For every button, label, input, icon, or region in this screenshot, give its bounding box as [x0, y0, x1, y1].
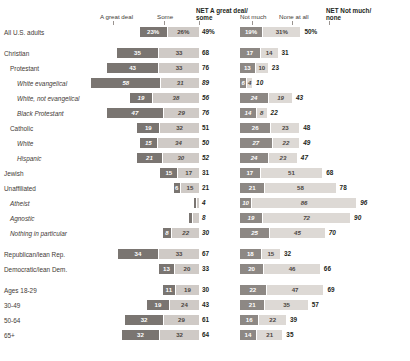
- segment-great-deal: 15: [140, 138, 158, 148]
- header-right-col2: None at all: [279, 13, 309, 20]
- segment-great-deal: 43: [107, 63, 159, 73]
- net-great-deal-some: 52: [202, 153, 209, 163]
- header-left-col1: A great deal: [100, 13, 133, 20]
- segment-not-much: 25: [240, 228, 270, 238]
- chart-row: Black Protestant47297614822: [0, 108, 410, 119]
- segment-not-much: 17: [240, 48, 261, 58]
- segment-not-much: 14: [240, 330, 257, 340]
- chart-sheet: A great deal Some NET A great deal/ some…: [0, 0, 410, 361]
- row-label: White, not evangelical: [17, 94, 80, 103]
- segment-not-much: 24: [240, 93, 269, 103]
- row-label: Black Protestant: [17, 109, 64, 118]
- net-great-deal-some: 67: [202, 249, 209, 259]
- net-great-deal-some: 31: [202, 168, 209, 178]
- net-great-deal-some: 68: [202, 48, 209, 58]
- net-not-much-none: 90: [354, 213, 361, 223]
- net-not-much-none: 96: [360, 198, 367, 208]
- segment-not-much: 10: [240, 198, 252, 208]
- row-label: White evangelical: [17, 79, 67, 88]
- row-label: Agnostic: [10, 214, 35, 223]
- segment-not-much: 26: [240, 123, 271, 133]
- chart-row: 65+323264142135: [0, 330, 410, 341]
- row-label: Republican/lean Rep.: [4, 250, 65, 259]
- header-right-col1: Not much: [240, 13, 266, 20]
- segment-some: 32: [160, 123, 199, 133]
- segment-some: 31: [161, 78, 199, 88]
- net-not-much-none: 49: [303, 138, 310, 148]
- chart-row: Protestant433376131023: [0, 63, 410, 74]
- segment-some: 19: [176, 285, 199, 295]
- segment-none-at-all: 46: [264, 264, 320, 274]
- segment-some: 30: [163, 153, 199, 163]
- row-label: White: [17, 139, 33, 148]
- header-right-net-line2: none: [326, 14, 341, 21]
- segment-none-at-all: 51: [261, 168, 323, 178]
- segment-none-at-all: 14: [261, 48, 278, 58]
- segment-some: 34: [158, 138, 199, 148]
- segment-none-at-all: 47: [267, 285, 324, 295]
- segment-none-at-all: 35: [265, 300, 307, 310]
- segment-some: 24: [170, 300, 199, 310]
- segment-great-deal: 47: [107, 108, 164, 118]
- row-label: All U.S. adults: [4, 28, 44, 37]
- net-great-deal-some: 56: [202, 93, 209, 103]
- net-great-deal-some: 89: [202, 78, 209, 88]
- segment-not-much: 21: [240, 300, 265, 310]
- net-great-deal-some: 49%: [202, 27, 215, 37]
- net-not-much-none: 50%: [305, 27, 318, 37]
- segment-great-deal: 23%: [140, 27, 168, 37]
- segment-great-deal: 35: [117, 48, 159, 58]
- segment-none-at-all: 15: [262, 249, 280, 259]
- segment-none-at-all: 86: [252, 198, 356, 208]
- tick-left-3: [199, 21, 200, 25]
- segment-some: 29: [164, 108, 199, 118]
- tick-right-1: [252, 21, 253, 25]
- segment-none-at-all: 22: [259, 315, 286, 325]
- chart-row: Atheist4108696: [0, 198, 410, 209]
- segment-some: [193, 213, 199, 223]
- segment-great-deal: 19: [147, 300, 170, 310]
- segment-some: 17: [178, 168, 199, 178]
- net-great-deal-some: 76: [202, 108, 209, 118]
- segment-not-much: 22: [240, 285, 267, 295]
- chart-row: White153450272249: [0, 138, 410, 149]
- row-label: Protestant: [10, 64, 39, 73]
- chart-row: 30-49192443213557: [0, 300, 410, 311]
- tick-left-1: [113, 21, 114, 25]
- segment-not-much: 27: [240, 138, 273, 148]
- chart-row: Democratic/lean Dem.132033204666: [0, 264, 410, 275]
- segment-not-much: 17: [240, 168, 261, 178]
- row-label: 30-49: [4, 301, 20, 310]
- segment-some: 15: [181, 183, 199, 193]
- segment-not-much: 13: [240, 63, 256, 73]
- segment-not-much: 6: [240, 78, 247, 88]
- row-label: Unaffiliated: [4, 184, 36, 193]
- net-not-much-none: 70: [329, 228, 336, 238]
- net-not-much-none: 57: [312, 300, 319, 310]
- net-not-much-none: 78: [340, 183, 347, 193]
- net-great-deal-some: 8: [202, 213, 206, 223]
- segment-none-at-all: 8: [257, 108, 267, 118]
- row-label: Democratic/lean Dem.: [4, 265, 67, 274]
- tick-right-2: [292, 21, 293, 25]
- net-great-deal-some: 43: [202, 300, 209, 310]
- net-great-deal-some: 21: [202, 183, 209, 193]
- row-label: 65+: [4, 331, 15, 340]
- segment-great-deal: 21: [137, 153, 162, 163]
- segment-not-much: 14: [240, 108, 257, 118]
- segment-some: 29: [164, 315, 199, 325]
- net-not-much-none: 23: [272, 63, 279, 73]
- chart-row: Jewish151731175168: [0, 168, 410, 179]
- segment-none-at-all: 45: [270, 228, 324, 238]
- segment-not-much: 20: [240, 264, 264, 274]
- segment-great-deal: 8: [163, 228, 173, 238]
- segment-great-deal: 19: [130, 93, 153, 103]
- chart-row: Catholic193251262348: [0, 123, 410, 134]
- chart-row: White, not evangelical193856241943: [0, 93, 410, 104]
- segment-none-at-all: 31%: [263, 27, 301, 37]
- row-label: Catholic: [10, 124, 33, 133]
- net-not-much-none: 31: [282, 48, 289, 58]
- net-not-much-none: 66: [324, 264, 331, 274]
- chart-row: Ages 18-29111930224769: [0, 285, 410, 296]
- segment-great-deal: 6: [174, 183, 181, 193]
